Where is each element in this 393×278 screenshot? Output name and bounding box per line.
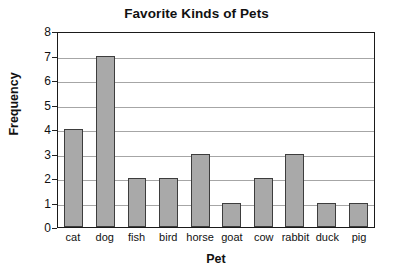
bar[interactable] <box>159 178 178 227</box>
x-tick-label: bird <box>152 231 184 244</box>
bar-slot <box>342 33 374 227</box>
bar-slot <box>311 33 343 227</box>
bar[interactable] <box>128 178 147 227</box>
bar-chart-figure: Favorite Kinds of Pets Frequency 8765432… <box>0 0 393 278</box>
x-axis-tick-labels: catdogfishbirdhorsegoatcowrabbitduckpig <box>57 231 375 244</box>
x-tick-label: goat <box>216 231 248 244</box>
bar-slot <box>153 33 185 227</box>
y-tick-label: 4 <box>33 124 51 136</box>
x-tick-label: fish <box>121 231 153 244</box>
y-tick-mark <box>52 228 57 229</box>
bar[interactable] <box>191 154 210 228</box>
x-tick-label: dog <box>89 231 121 244</box>
bar[interactable] <box>349 203 368 228</box>
x-tick-label: duck <box>311 231 343 244</box>
bar[interactable] <box>96 56 115 228</box>
y-tick-label: 8 <box>33 26 51 38</box>
y-tick-label: 5 <box>33 100 51 112</box>
bar-slot <box>184 33 216 227</box>
plot-area <box>57 32 375 228</box>
bar[interactable] <box>317 203 336 228</box>
x-tick-label: pig <box>343 231 375 244</box>
x-axis-title: Pet <box>57 252 375 266</box>
bar[interactable] <box>254 178 273 227</box>
x-tick-label: cat <box>57 231 89 244</box>
x-tick-label: cow <box>248 231 280 244</box>
y-tick-label: 1 <box>33 198 51 210</box>
bar-slot <box>248 33 280 227</box>
bar-slot <box>279 33 311 227</box>
bar-slot <box>216 33 248 227</box>
x-tick-label: horse <box>184 231 216 244</box>
y-tick-label: 3 <box>33 149 51 161</box>
bar[interactable] <box>222 203 241 228</box>
y-axis-title: Frequency <box>7 59 21 149</box>
y-axis-tick-labels: 876543210 <box>33 32 51 228</box>
bar-slot <box>90 33 122 227</box>
bar-slot <box>121 33 153 227</box>
bar[interactable] <box>64 129 83 227</box>
x-tick-label: rabbit <box>280 231 312 244</box>
bar[interactable] <box>285 154 304 228</box>
chart-title: Favorite Kinds of Pets <box>0 6 393 21</box>
y-tick-label: 2 <box>33 173 51 185</box>
bar-slot <box>58 33 90 227</box>
bars-layer <box>58 33 374 227</box>
y-tick-label: 0 <box>33 222 51 234</box>
y-tick-label: 6 <box>33 75 51 87</box>
y-tick-label: 7 <box>33 51 51 63</box>
